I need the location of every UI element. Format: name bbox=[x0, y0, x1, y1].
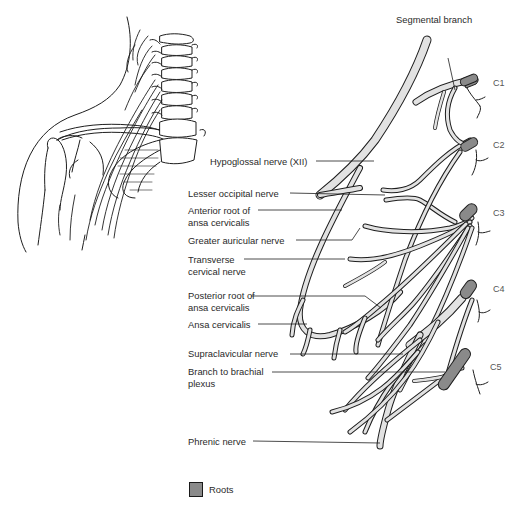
ribs bbox=[108, 140, 160, 198]
label-hypoglossal-nerve: Hypoglossal nerve (XII) bbox=[210, 156, 307, 168]
label-phrenic-nerve: Phrenic nerve bbox=[188, 436, 246, 448]
label-posterior-root-ansa: Posterior root of ansa cervicalis bbox=[188, 290, 263, 313]
label-root-c5: C5 bbox=[490, 362, 502, 372]
legend: Roots bbox=[189, 482, 234, 497]
label-ansa-cervicalis: Ansa cervicalis bbox=[188, 319, 251, 331]
label-segmental-branch: Segmental branch bbox=[396, 14, 472, 26]
label-root-c3: C3 bbox=[493, 208, 505, 218]
label-root-c4: C4 bbox=[493, 284, 505, 294]
label-root-c2: C2 bbox=[493, 140, 505, 150]
inset-neck-shoulder bbox=[18, 17, 206, 252]
leader-lines bbox=[244, 58, 455, 443]
label-supraclavicular-nerve: Supraclavicular nerve bbox=[188, 348, 278, 360]
legend-label-roots: Roots bbox=[209, 484, 234, 495]
label-branch-to-brachial-plexus: Branch to brachial plexus bbox=[188, 366, 273, 389]
label-lesser-occipital-nerve: Lesser occipital nerve bbox=[188, 188, 279, 200]
label-transverse-cervical-nerve: Transverse cervical nerve bbox=[188, 254, 258, 277]
root-c3-body bbox=[457, 201, 479, 223]
legend-swatch-roots bbox=[189, 482, 203, 497]
label-anterior-root-ansa: Anterior root of ansa cervicalis bbox=[188, 205, 258, 228]
label-root-c1: C1 bbox=[493, 78, 505, 88]
vertebrae bbox=[150, 34, 205, 164]
label-greater-auricular-nerve: Greater auricular nerve bbox=[188, 235, 284, 247]
cervical-plexus-diagram: .nv { fill: none; stroke: #1e1e1e; strok… bbox=[0, 0, 527, 518]
